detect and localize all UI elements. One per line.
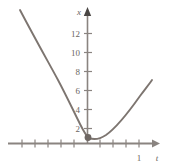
y-tick-label-12: 12 (71, 29, 80, 39)
y-tick-label-4: 4 (76, 105, 81, 115)
plot-curve (20, 10, 152, 139)
x-tick-label-1: 1 (137, 153, 142, 163)
x-axis-arrowhead (152, 140, 160, 148)
graph-figure: 12 10 8 6 4 2 1 x t (0, 0, 169, 167)
y-tick-label-10: 10 (71, 48, 81, 58)
y-tick-label-6: 6 (76, 86, 81, 96)
plot-canvas: 12 10 8 6 4 2 1 x t (0, 0, 169, 167)
minimum-point-marker (85, 134, 92, 141)
y-axis-arrowhead (84, 7, 91, 16)
y-axis-label: x (76, 7, 81, 17)
x-axis-label: t (156, 153, 159, 163)
y-tick-label-2: 2 (76, 124, 81, 134)
y-tick-label-8: 8 (76, 67, 81, 77)
